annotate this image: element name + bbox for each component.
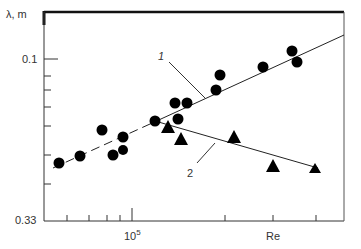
data-point	[309, 163, 321, 173]
y-axis-label: λ, m	[6, 8, 27, 20]
data-point	[227, 130, 241, 143]
data-point	[118, 132, 129, 143]
data-point	[173, 114, 184, 125]
x-axis-label: Re	[266, 230, 280, 242]
data-point	[182, 98, 193, 109]
data-point	[266, 159, 280, 172]
fit-line-1	[53, 35, 344, 168]
leader-line-1	[169, 62, 205, 98]
data-point	[174, 132, 188, 145]
data-point	[118, 145, 128, 155]
data-point	[258, 62, 269, 73]
chart: λ, m 0.1 0.33 105 Re 1 2	[0, 0, 361, 249]
data-point	[150, 116, 161, 127]
series-1-points	[54, 46, 303, 169]
data-point	[170, 98, 181, 109]
x-tick-label-1e5: 105	[124, 228, 141, 242]
x-axis-ticks	[67, 208, 316, 221]
series-2-points	[161, 120, 321, 173]
data-point	[75, 151, 86, 162]
data-point	[287, 46, 298, 57]
data-point	[292, 57, 303, 68]
data-point	[54, 158, 65, 169]
data-point	[211, 85, 222, 96]
data-point	[97, 125, 108, 136]
plot-frame	[44, 11, 344, 221]
y-tick-label-bottom: 0.33	[15, 214, 36, 226]
data-point	[215, 70, 226, 81]
y-tick-label-top: 0.1	[22, 53, 37, 65]
series-label-1: 1	[158, 50, 164, 62]
series-label-2: 2	[187, 167, 193, 179]
data-point	[108, 150, 119, 161]
leader-line-2	[197, 143, 215, 163]
